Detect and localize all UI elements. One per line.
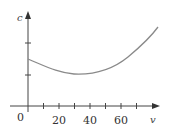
curve-c-of-v [28,27,158,74]
origin-label: 0 [17,111,24,124]
x-tick-label-20: 20 [52,114,66,127]
x-tick-label-60: 60 [114,114,128,127]
chart-svg: c v 0 20 40 60 [0,0,186,134]
x-axis-label: v [150,114,156,125]
x-tick-label-40: 40 [83,114,97,127]
x-axis-arrow-icon [152,103,160,109]
y-axis-label: c [17,12,23,23]
y-axis-arrow-icon [25,11,31,19]
